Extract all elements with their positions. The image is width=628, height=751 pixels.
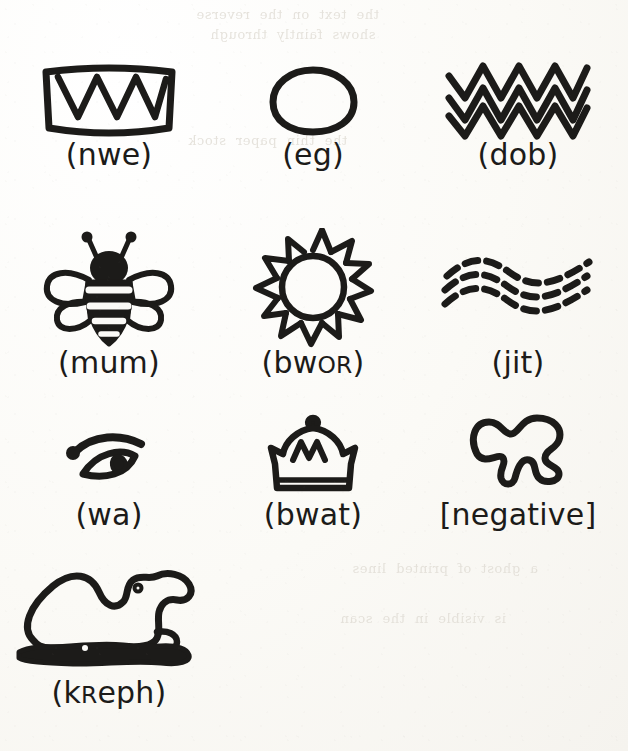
glyph-entry-eg[interactable]: (eg)	[218, 0, 408, 170]
glyph-label-wa: (wa)	[75, 500, 142, 530]
glyph-label-kreph: (kreph)	[52, 678, 167, 708]
glyph-row: (mum)	[0, 170, 628, 378]
glyph-row: (kreph)	[0, 530, 628, 751]
glyph-cell-empty	[408, 530, 628, 751]
glyph-label-nwe: (nwe)	[66, 140, 152, 170]
glyph-chart: (nwe) (eg)	[0, 0, 628, 751]
glyph-entry-jit[interactable]: (jit)	[408, 170, 628, 378]
glyph-entry-dob[interactable]: (dob)	[408, 0, 628, 170]
glyph-entry-mum[interactable]: (mum)	[0, 170, 218, 378]
glyph-entry-bwat[interactable]: (bwat)	[218, 378, 408, 530]
glyph-label-bwor-smallcaps: or	[317, 351, 352, 379]
glyph-entry-kreph[interactable]: (kreph)	[0, 530, 218, 751]
glyph-entry-negative[interactable]: [negative]	[408, 378, 628, 530]
glyph-cell-empty	[218, 530, 408, 751]
glyph-row: (nwe) (eg)	[0, 0, 628, 170]
glyph-label-kreph-prefix: (k	[52, 675, 81, 710]
egg-icon	[258, 60, 368, 140]
glyph-label-mum: (mum)	[58, 348, 160, 378]
glyph-label-kreph-suffix: eph)	[97, 675, 166, 710]
glyph-entry-wa[interactable]: (wa)	[0, 378, 218, 530]
glyph-label-bwor-prefix: (bw	[262, 345, 318, 380]
glyph-entry-bwor[interactable]: (bwor)	[218, 170, 408, 378]
eye-icon	[59, 426, 159, 500]
crown-icon	[261, 414, 365, 500]
dashed-waves-icon	[439, 252, 597, 348]
zigzag-water-icon	[443, 58, 593, 140]
glyph-label-bwor-suffix: )	[353, 345, 365, 380]
glyph-label-dob: (dob)	[478, 140, 559, 170]
sun-icon	[251, 228, 375, 348]
glyph-label-negative: [negative]	[440, 500, 597, 530]
camel-icon	[11, 548, 207, 668]
glyph-row: (wa)	[0, 378, 628, 530]
blob-outline-icon	[459, 410, 577, 500]
glyph-entry-nwe[interactable]: (nwe)	[0, 0, 218, 170]
glyph-label-jit: (jit)	[492, 348, 545, 378]
scanned-page: the text on the reverse shows faintly th…	[0, 0, 628, 751]
bee-icon	[39, 228, 179, 348]
glyph-label-bwat: (bwat)	[264, 500, 362, 530]
teeth-icon	[38, 60, 180, 140]
glyph-label-kreph-smallcaps: r	[81, 681, 97, 709]
glyph-label-eg: (eg)	[282, 140, 344, 170]
glyph-label-bwor: (bwor)	[262, 348, 365, 378]
